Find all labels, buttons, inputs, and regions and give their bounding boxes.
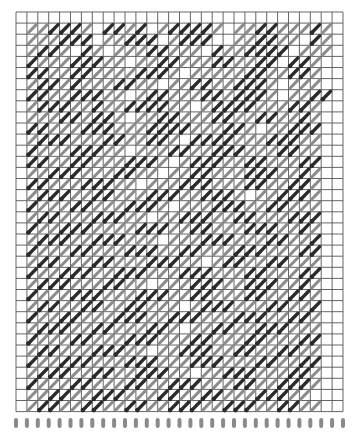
gray-thread-stroke [116, 125, 124, 133]
thread-end-dot [135, 308, 140, 313]
gray-thread-stroke [116, 335, 124, 343]
gray-thread-stroke [225, 247, 233, 255]
gray-thread-stroke [105, 202, 113, 210]
thread-end-dot [201, 186, 206, 191]
thread-end-dot [244, 164, 249, 169]
gray-thread-stroke [39, 58, 47, 66]
gray-thread-stroke [181, 91, 189, 99]
gray-thread-stroke [127, 191, 135, 199]
gray-thread-stroke [214, 313, 222, 321]
thread-end-dot [81, 408, 86, 413]
gray-thread-stroke [170, 224, 178, 232]
thread-end-dot [146, 75, 151, 80]
thread-end-dot [81, 164, 86, 169]
thread-end-dot [102, 30, 107, 35]
thread-end-dot [190, 141, 195, 146]
gray-thread-stroke [246, 324, 254, 332]
gray-thread-stroke [61, 158, 69, 166]
gray-thread-stroke [137, 280, 145, 288]
warp-pin-icon [112, 418, 116, 428]
gray-thread-stroke [203, 380, 211, 388]
thread-end-dot [222, 375, 227, 380]
thread-end-dot [168, 197, 173, 202]
thread-end-dot [70, 230, 75, 235]
thread-end-dot [201, 352, 206, 357]
thread-end-dot [255, 53, 260, 58]
thread-end-dot [70, 64, 75, 69]
gray-thread-stroke [159, 347, 167, 355]
gray-thread-stroke [192, 324, 200, 332]
thread-end-dot [70, 119, 75, 124]
gray-thread-stroke [127, 391, 135, 399]
thread-end-dot [124, 363, 129, 368]
gray-thread-stroke [72, 302, 80, 310]
thread-end-dot [299, 75, 304, 80]
thread-end-dot [37, 408, 42, 413]
gray-thread-stroke [181, 291, 189, 299]
thread-end-dot [299, 130, 304, 135]
gray-thread-stroke [181, 335, 189, 343]
gray-thread-stroke [94, 69, 102, 77]
thread-end-dot [233, 86, 238, 91]
gray-thread-stroke [290, 80, 298, 88]
thread-end-dot [211, 164, 216, 169]
thread-end-dot [211, 286, 216, 291]
gray-thread-stroke [301, 202, 309, 210]
gray-thread-stroke [39, 202, 47, 210]
thread-end-dot [222, 108, 227, 113]
thread-end-dot [81, 186, 86, 191]
gray-thread-stroke [50, 380, 58, 388]
gray-thread-stroke [290, 91, 298, 99]
thread-end-dot [277, 308, 282, 313]
thread-end-dot [288, 219, 293, 224]
thread-end-dot [70, 208, 75, 213]
gray-thread-stroke [148, 169, 156, 177]
thread-end-dot [244, 375, 249, 380]
thread-end-dot [113, 30, 118, 35]
thread-end-dot [277, 208, 282, 213]
gray-thread-stroke [137, 58, 145, 66]
gray-thread-stroke [192, 91, 200, 99]
thread-end-dot [255, 186, 260, 191]
thread-end-dot [70, 86, 75, 91]
thread-end-dot [233, 108, 238, 113]
gray-thread-stroke [246, 358, 254, 366]
gray-thread-stroke [225, 280, 233, 288]
gray-thread-stroke [94, 169, 102, 177]
thread-end-dot [299, 275, 304, 280]
warp-pin-icon [178, 418, 182, 428]
thread-end-dot [255, 75, 260, 80]
gray-thread-stroke [116, 47, 124, 55]
thread-end-dot [211, 53, 216, 58]
gray-thread-stroke [236, 291, 244, 299]
gray-thread-stroke [83, 369, 91, 377]
gray-thread-stroke [290, 202, 298, 210]
gray-thread-stroke [39, 247, 47, 255]
gray-thread-stroke [214, 247, 222, 255]
gray-thread-stroke [203, 369, 211, 377]
gray-thread-stroke [225, 80, 233, 88]
thread-end-dot [190, 386, 195, 391]
thread-end-dot [157, 53, 162, 58]
gray-thread-stroke [127, 213, 135, 221]
thread-end-dot [222, 119, 227, 124]
thread-end-dot [81, 130, 86, 135]
thread-end-dot [244, 175, 249, 180]
gray-thread-stroke [257, 191, 265, 199]
gray-thread-stroke [236, 113, 244, 121]
gray-thread-stroke [83, 236, 91, 244]
gray-thread-stroke [83, 347, 91, 355]
warp-pin-icon [145, 418, 149, 428]
thread-end-dot [288, 64, 293, 69]
gray-thread-stroke [203, 58, 211, 66]
thread-end-dot [244, 53, 249, 58]
thread-end-dot [190, 42, 195, 47]
thread-end-dot [48, 408, 53, 413]
gray-thread-stroke [28, 347, 36, 355]
thread-end-dot [211, 308, 216, 313]
gray-thread-stroke [279, 369, 287, 377]
gray-thread-stroke [170, 269, 178, 277]
thread-end-dot [201, 97, 206, 102]
thread-end-dot [48, 175, 53, 180]
gray-thread-stroke [170, 180, 178, 188]
